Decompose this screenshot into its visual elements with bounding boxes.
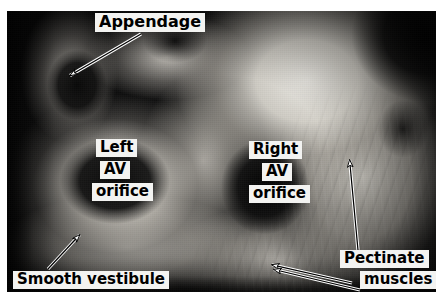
label-appendage: Appendage <box>95 13 205 32</box>
label-left-av-orifice-line1: Left <box>96 139 137 157</box>
label-pectinate-muscles-line2: muscles <box>360 271 436 289</box>
label-left-av-orifice-line3: orifice <box>92 183 153 201</box>
figure-container: Appendage Left AV orifice Right AV orifi… <box>0 0 440 300</box>
label-right-av-orifice-line1: Right <box>249 141 302 159</box>
label-right-av-orifice-line2: AV <box>262 163 292 181</box>
label-left-av-orifice-line2: AV <box>100 161 130 179</box>
label-right-av-orifice-line3: orifice <box>249 185 310 203</box>
label-smooth-vestibule: Smooth vestibule <box>13 271 169 289</box>
label-pectinate-muscles-line1: Pectinate <box>340 250 429 268</box>
